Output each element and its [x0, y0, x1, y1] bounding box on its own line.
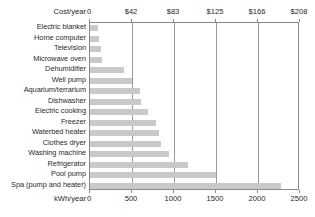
bar [90, 183, 281, 189]
bar [90, 130, 159, 136]
top-axis-tick [257, 19, 258, 22]
bottom-axis-tick [215, 190, 216, 193]
y-axis-label: Home computer [0, 33, 86, 44]
bar [90, 109, 148, 115]
bar [90, 172, 216, 178]
bar-row [90, 34, 300, 45]
bar-row [90, 139, 300, 150]
bar [90, 120, 156, 126]
bottom-axis-tick-label: 2500 [279, 194, 315, 203]
y-axis-label: Television [0, 43, 86, 54]
bottom-axis-tick-label: 500 [111, 194, 151, 203]
bottom-axis-tick [257, 190, 258, 193]
top-axis-tick [173, 19, 174, 22]
y-axis-label: Spa (pump and heater) [0, 180, 86, 191]
bar [90, 36, 99, 42]
bottom-axis-tick-label: 0 [69, 194, 109, 203]
bottom-axis-tick-label: 2000 [237, 194, 277, 203]
top-axis-tick [131, 19, 132, 22]
bar [90, 25, 98, 31]
bar [90, 88, 140, 94]
bars-layer [90, 23, 298, 189]
top-axis-tick-label: $83 [153, 7, 193, 16]
bar-row [90, 149, 300, 160]
top-axis-tick-label: $42 [111, 7, 151, 16]
bar-row [90, 107, 300, 118]
bottom-axis-tick [173, 190, 174, 193]
bar-row [90, 128, 300, 139]
top-axis-tick [299, 19, 300, 22]
bar-row [90, 118, 300, 129]
bottom-axis-tick-label: 1000 [153, 194, 193, 203]
bar-row [90, 76, 300, 87]
bar [90, 99, 141, 105]
bar-row [90, 86, 300, 97]
plot-area [89, 22, 299, 190]
bottom-axis-tick [299, 190, 300, 193]
top-axis-tick-label: 0 [69, 7, 109, 16]
y-axis-label: Waterbed heater [0, 127, 86, 138]
bar-row [90, 65, 300, 76]
bar [90, 57, 102, 63]
bar [90, 151, 169, 157]
y-axis-label: Freezer [0, 117, 86, 128]
top-axis: 0$42$83$125$166$208 [89, 22, 299, 23]
bar-row [90, 170, 300, 181]
bottom-axis-tick [89, 190, 90, 193]
bar [90, 141, 161, 147]
y-axis-label: Washing machine [0, 148, 86, 159]
bar [90, 78, 132, 84]
y-axis-label: Clothes dryer [0, 138, 86, 149]
top-axis-tick [215, 19, 216, 22]
top-axis-tick-label: $166 [237, 7, 277, 16]
bottom-axis-tick [131, 190, 132, 193]
y-axis-label: Well pump [0, 75, 86, 86]
bar [90, 162, 188, 168]
y-axis-label: Dishwasher [0, 96, 86, 107]
bar-row [90, 55, 300, 66]
top-axis-tick-label: $125 [195, 7, 235, 16]
bar-row [90, 23, 300, 34]
y-axis-label: Aquarium/terrarium [0, 85, 86, 96]
bar-chart: Cost/year kWh/year Electric blanketHome … [0, 0, 315, 217]
y-axis-label: Electric cooking [0, 106, 86, 117]
bottom-axis-tick-label: 1500 [195, 194, 235, 203]
bar [90, 67, 124, 73]
y-axis-category-labels: Electric blanketHome computerTelevisionM… [0, 22, 86, 190]
y-axis-label: Dehumidifier [0, 64, 86, 75]
bar-row [90, 97, 300, 108]
y-axis-label: Microwave oven [0, 54, 86, 65]
top-axis-tick [89, 19, 90, 22]
y-axis-label: Electric blanket [0, 22, 86, 33]
bar-row [90, 44, 300, 55]
top-axis-tick-label: $208 [279, 7, 315, 16]
bar [90, 46, 101, 52]
bar-row [90, 160, 300, 171]
y-axis-label: Refrigerator [0, 159, 86, 170]
bottom-axis: 05001000150020002500 [89, 190, 299, 191]
y-axis-label: Pool pump [0, 169, 86, 180]
